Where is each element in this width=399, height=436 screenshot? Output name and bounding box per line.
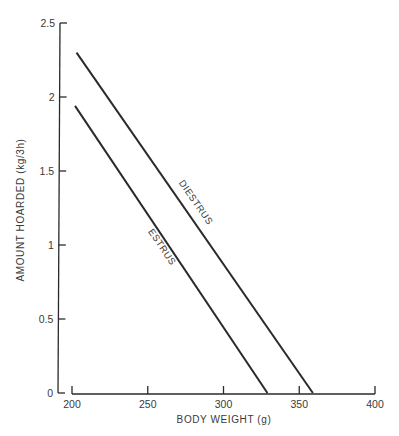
y-axis-title: AMOUNT HOARDED (kg/3h) <box>15 138 26 281</box>
x-tick-label: 350 <box>290 398 308 410</box>
y-tick-label: 1 <box>48 239 54 251</box>
y-tick-label: 1.5 <box>40 165 55 177</box>
x-tick-label: 200 <box>63 398 81 410</box>
x-tick-label: 300 <box>215 398 233 410</box>
chart-container: 00.511.522.5 200250300350400 BODY WEIGHT… <box>0 0 399 436</box>
y-tick-label: 0.5 <box>39 313 54 325</box>
x-tick-label: 250 <box>139 398 157 410</box>
y-tick-label: 2.5 <box>40 17 55 29</box>
y-axis-line <box>58 23 60 393</box>
series-label-diestrus: DIESTRUS <box>177 178 216 227</box>
x-axis: 200250300350400 <box>63 386 384 410</box>
x-tick-label: 400 <box>366 398 384 410</box>
series-line-diestrus <box>77 53 313 393</box>
y-tick-label: 0 <box>47 387 53 399</box>
series-label-estrus: ESTRUS <box>146 226 178 267</box>
series-group: DIESTRUSESTRUS <box>75 53 313 393</box>
y-tick-label: 2 <box>49 91 55 103</box>
y-axis: 00.511.522.5 <box>39 17 67 399</box>
line-chart: 00.511.522.5 200250300350400 BODY WEIGHT… <box>0 0 399 436</box>
x-axis-title: BODY WEIGHT (g) <box>177 414 272 425</box>
